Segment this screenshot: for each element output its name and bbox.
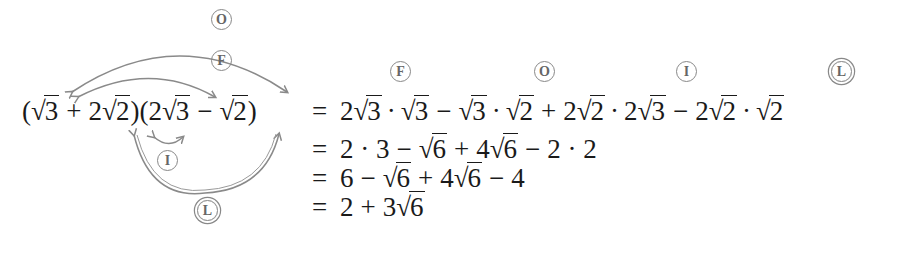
label-outer-top: O xyxy=(534,61,555,82)
paren: ) xyxy=(248,96,257,126)
equals: = xyxy=(312,192,327,222)
sqrt-3: √3 xyxy=(162,96,190,126)
step-4-result: = 2+3√6 xyxy=(312,192,425,222)
label-first-top: F xyxy=(390,61,411,82)
label-first-left: F xyxy=(211,50,232,71)
sqrt-2: √2 xyxy=(102,96,130,126)
step-1: = 2√3·√3−√3·√2+2√2·2√3−2√2·√2 xyxy=(312,96,784,126)
label-last-top: L xyxy=(831,61,852,82)
sqrt-2: √2 xyxy=(219,96,247,126)
foil-arrows xyxy=(0,0,907,257)
first-arrow xyxy=(78,79,215,98)
sqrt-3: √3 xyxy=(31,96,59,126)
inner-arrow xyxy=(154,137,183,144)
label-last-left: L xyxy=(197,200,218,221)
equals: = xyxy=(312,96,327,126)
step-3: = 6−√6+4√6−4 xyxy=(312,163,525,193)
equals: = xyxy=(312,163,327,193)
last-arrow xyxy=(134,134,279,194)
label-outer-left: O xyxy=(211,9,232,30)
minus: − xyxy=(197,96,212,126)
paren: )( xyxy=(130,96,148,126)
label-inner-top: I xyxy=(676,61,697,82)
paren: ( xyxy=(22,96,31,126)
step-2: = 2 · 3−√6+4√6−2 · 2 xyxy=(312,134,597,164)
coef: 2 xyxy=(89,96,103,126)
equals: = xyxy=(312,134,327,164)
label-inner-left: I xyxy=(157,150,178,171)
coef: 2 xyxy=(148,96,162,126)
product-expression: (√3+2√2)(2√3−√2) xyxy=(22,96,257,126)
plus: + xyxy=(66,96,81,126)
